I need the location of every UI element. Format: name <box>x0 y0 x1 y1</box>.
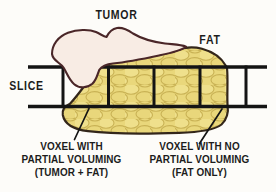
right-caption-line-3: (FAT ONLY) <box>172 165 227 178</box>
right-caption-line-1: VOXEL WITH NO <box>159 139 239 152</box>
tumor-label: TUMOR <box>95 8 137 21</box>
right-caption-line-2: PARTIAL VOLUMING <box>150 152 250 165</box>
left-caption-line-2: PARTIAL VOLUMING <box>22 152 122 165</box>
left-caption-line-1: VOXEL WITH <box>40 139 102 152</box>
diagram-canvas: TUMOR FAT SLICE VOXEL WITH PARTIAL VOLUM… <box>0 0 276 192</box>
left-caption-line-3: (TUMOR + FAT) <box>35 165 109 178</box>
fat-label: FAT <box>199 33 220 46</box>
slice-label: SLICE <box>9 79 44 92</box>
partial-voluming-diagram: TUMOR FAT SLICE VOXEL WITH PARTIAL VOLUM… <box>0 0 276 192</box>
